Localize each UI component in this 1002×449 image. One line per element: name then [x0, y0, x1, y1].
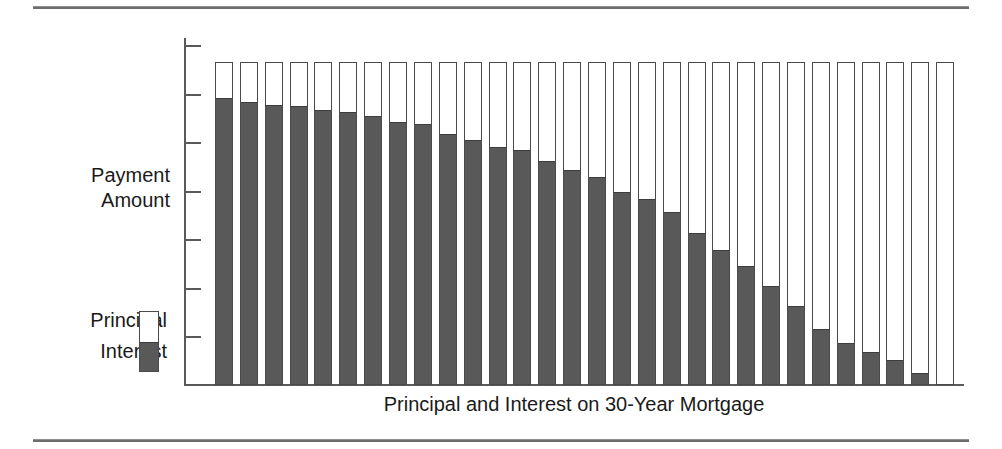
bar-stack	[339, 62, 357, 385]
bar-segment-interest	[266, 105, 282, 384]
bar-segment-interest	[713, 250, 729, 384]
bar-segment-interest	[241, 102, 257, 384]
bar-segment-interest	[763, 286, 779, 384]
bar-stack	[787, 62, 805, 385]
bar-segment-interest	[639, 199, 655, 384]
legend-swatch-interest	[140, 342, 158, 371]
bar-segment-interest	[315, 110, 331, 384]
bar-segment-interest	[440, 134, 456, 384]
bar-segment-interest	[514, 150, 530, 384]
bar-segment-interest	[664, 212, 680, 384]
bar-stack	[862, 62, 880, 385]
bar-segment-interest	[738, 266, 754, 384]
figure-container: Payment Amount Principal and Interest on…	[0, 0, 1002, 449]
bars-plot-area	[0, 0, 1002, 449]
bar-segment-interest	[788, 306, 804, 384]
bar-stack	[911, 62, 929, 385]
bar-stack	[265, 62, 283, 385]
bar-stack	[663, 62, 681, 385]
bar-stack	[712, 62, 730, 385]
bar-stack	[314, 62, 332, 385]
bar-segment-interest	[490, 147, 506, 384]
bar-segment-interest	[813, 329, 829, 384]
bar-segment-interest	[589, 177, 605, 384]
bar-segment-interest	[887, 360, 903, 384]
bar-stack	[886, 62, 904, 385]
bar-stack	[240, 62, 258, 385]
bar-stack	[290, 62, 308, 385]
bar-segment-interest	[838, 343, 854, 384]
bar-stack	[513, 62, 531, 385]
bar-segment-interest	[465, 140, 481, 384]
y-axis-label: Payment Amount	[30, 163, 170, 213]
bar-segment-interest	[390, 122, 406, 384]
bar-stack	[563, 62, 581, 385]
bar-stack	[762, 62, 780, 385]
bar-stack	[588, 62, 606, 385]
x-axis-title: Principal and Interest on 30-Year Mortga…	[184, 393, 964, 416]
bar-stack	[489, 62, 507, 385]
bar-segment-interest	[863, 352, 879, 384]
bar-stack	[737, 62, 755, 385]
bar-stack	[364, 62, 382, 385]
bar-stack	[613, 62, 631, 385]
bar-segment-interest	[689, 233, 705, 384]
legend-swatch-principal	[140, 312, 158, 343]
bar-stack	[812, 62, 830, 385]
bar-segment-interest	[415, 124, 431, 384]
bar-segment-interest	[912, 373, 928, 384]
bar-stack	[414, 62, 432, 385]
legend-key-swatch	[139, 311, 159, 372]
bar-segment-interest	[614, 192, 630, 385]
bar-stack	[688, 62, 706, 385]
bar-segment-interest	[365, 116, 381, 384]
bar-stack	[638, 62, 656, 385]
bar-stack	[439, 62, 457, 385]
bar-stack	[538, 62, 556, 385]
bar-segment-interest	[340, 112, 356, 384]
bar-segment-interest	[539, 161, 555, 384]
bar-segment-interest	[564, 170, 580, 384]
bar-stack	[215, 62, 233, 385]
bar-segment-interest	[216, 98, 232, 384]
bar-stack	[837, 62, 855, 385]
bar-stack	[389, 62, 407, 385]
bar-stack	[464, 62, 482, 385]
bar-segment-interest	[291, 106, 307, 384]
bar-stack	[936, 62, 954, 385]
